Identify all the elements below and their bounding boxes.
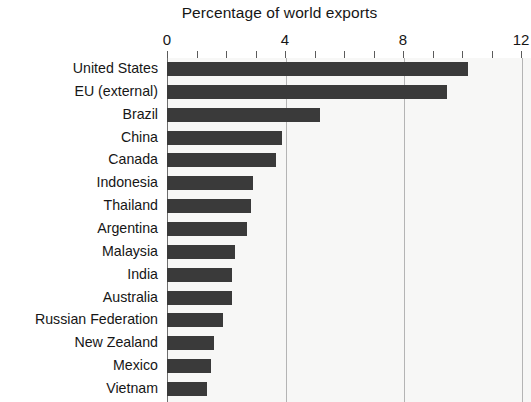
y-axis-category-labels: United StatesEU (external)BrazilChinaCan… xyxy=(0,58,163,402)
chart-title: Percentage of world exports xyxy=(0,4,531,22)
bar xyxy=(167,336,214,350)
x-tick-label-0: 0 xyxy=(163,31,171,48)
category-label: Canada xyxy=(0,151,163,167)
x-tick-mark xyxy=(285,51,286,58)
bars-layer xyxy=(167,58,531,402)
category-label: China xyxy=(0,129,163,145)
category-label: Thailand xyxy=(0,197,163,213)
bar-chart: Percentage of world exports 04812 United… xyxy=(0,0,531,402)
bar xyxy=(167,176,253,190)
bar xyxy=(167,85,447,99)
bar xyxy=(167,199,251,213)
bar xyxy=(167,382,207,396)
x-axis-tick-labels: 04812 xyxy=(0,31,531,51)
bar xyxy=(167,153,276,167)
x-tick-label-4: 4 xyxy=(281,31,289,48)
x-tick-mark xyxy=(492,51,493,58)
x-tick-mark xyxy=(433,51,434,58)
category-label: Brazil xyxy=(0,106,163,122)
category-label: Argentina xyxy=(0,220,163,236)
bar xyxy=(167,108,320,122)
bar xyxy=(167,131,282,145)
category-label: Russian Federation xyxy=(0,311,163,327)
x-tick-mark xyxy=(256,51,257,58)
x-tick-mark xyxy=(197,51,198,58)
x-tick-mark xyxy=(403,51,404,58)
x-tick-mark xyxy=(462,51,463,58)
x-axis-tick-marks xyxy=(0,51,531,58)
bar xyxy=(167,313,223,327)
category-label: India xyxy=(0,266,163,282)
bar xyxy=(167,291,232,305)
bar xyxy=(167,359,211,373)
bar xyxy=(167,222,247,236)
category-label: Malaysia xyxy=(0,243,163,259)
category-label: EU (external) xyxy=(0,83,163,99)
category-label: Australia xyxy=(0,289,163,305)
x-tick-label-8: 8 xyxy=(399,31,407,48)
x-tick-mark xyxy=(374,51,375,58)
x-tick-mark xyxy=(344,51,345,58)
category-label: New Zealand xyxy=(0,334,163,350)
category-label: Vietnam xyxy=(0,380,163,396)
category-label: Mexico xyxy=(0,357,163,373)
category-label: United States xyxy=(0,60,163,76)
bar xyxy=(167,245,235,259)
x-tick-mark xyxy=(226,51,227,58)
x-tick-mark xyxy=(315,51,316,58)
x-tick-mark xyxy=(167,51,168,58)
x-tick-mark xyxy=(521,51,522,58)
bar xyxy=(167,62,468,76)
category-label: Indonesia xyxy=(0,174,163,190)
x-tick-label-12: 12 xyxy=(513,31,530,48)
bar xyxy=(167,268,232,282)
